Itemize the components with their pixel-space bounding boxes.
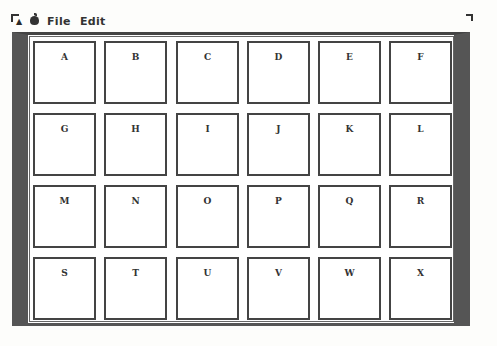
grid-cell-q[interactable]: Q <box>318 185 381 248</box>
cell-label: I <box>178 124 237 134</box>
cell-label: O <box>178 196 237 206</box>
grid-cell-v[interactable]: V <box>247 257 310 320</box>
grid-cell-i[interactable]: I <box>176 113 239 176</box>
grid-cell-h[interactable]: H <box>104 113 167 176</box>
cell-label: R <box>391 196 450 206</box>
cell-label: U <box>178 268 237 278</box>
grid-cell-o[interactable]: O <box>176 185 239 248</box>
cell-label: B <box>106 52 165 62</box>
cell-label: G <box>35 124 94 134</box>
cell-label: E <box>320 52 379 62</box>
grid-cell-a[interactable]: A <box>33 41 96 104</box>
grid-cell-m[interactable]: M <box>33 185 96 248</box>
grid-cell-d[interactable]: D <box>247 41 310 104</box>
grid-cell-s[interactable]: S <box>33 257 96 320</box>
cell-label: M <box>35 196 94 206</box>
grid-cell-c[interactable]: C <box>176 41 239 104</box>
grid-cell-t[interactable]: T <box>104 257 167 320</box>
grid-cell-x[interactable]: X <box>389 257 452 320</box>
grid-cell-u[interactable]: U <box>176 257 239 320</box>
grid-cell-w[interactable]: W <box>318 257 381 320</box>
grid-cell-r[interactable]: R <box>389 185 452 248</box>
cell-label: C <box>178 52 237 62</box>
grid-cell-j[interactable]: J <box>247 113 310 176</box>
grid-cell-e[interactable]: E <box>318 41 381 104</box>
apple-menu-icon[interactable] <box>30 16 39 25</box>
grid-cell-k[interactable]: K <box>318 113 381 176</box>
cell-label: Q <box>320 196 379 206</box>
cell-label: H <box>106 124 165 134</box>
cell-label: X <box>391 268 450 278</box>
caret-icon: ▲ <box>16 17 22 26</box>
grid-cell-p[interactable]: P <box>247 185 310 248</box>
menu-file[interactable]: File <box>47 15 71 28</box>
cell-label: F <box>391 52 450 62</box>
grid-cell-n[interactable]: N <box>104 185 167 248</box>
cell-label: N <box>106 196 165 206</box>
cell-label: V <box>249 268 308 278</box>
cell-label: W <box>320 268 379 278</box>
grid-cell-b[interactable]: B <box>104 41 167 104</box>
cell-label: L <box>391 124 450 134</box>
cell-label: S <box>35 268 94 278</box>
cell-label: A <box>35 52 94 62</box>
grid-cell-f[interactable]: F <box>389 41 452 104</box>
cell-label: D <box>249 52 308 62</box>
menu-edit[interactable]: Edit <box>80 15 106 28</box>
cell-label: J <box>249 124 308 134</box>
grid-cell-l[interactable]: L <box>389 113 452 176</box>
cell-label: P <box>249 196 308 206</box>
cell-label: K <box>320 124 379 134</box>
grid-cell-g[interactable]: G <box>33 113 96 176</box>
cell-label: T <box>106 268 165 278</box>
window-corner-top-right-icon <box>466 14 473 21</box>
